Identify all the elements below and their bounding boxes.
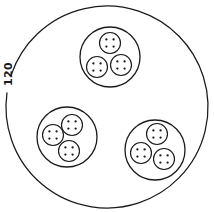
cluster-lower-right-unit-top-outline <box>147 124 168 145</box>
cluster-lower-right-unit-left-outline <box>131 143 152 164</box>
dot <box>48 137 50 139</box>
cluster-lower-left-unit-bottom <box>59 141 80 162</box>
dot <box>67 120 69 122</box>
dot <box>64 146 66 148</box>
dot <box>159 129 161 131</box>
dot <box>92 62 94 64</box>
dot <box>92 69 94 71</box>
cluster-group <box>37 27 185 180</box>
cluster-top-unit-top <box>100 33 121 54</box>
figure-canvas: 120 <box>0 0 214 212</box>
dot <box>105 38 107 40</box>
dot <box>143 155 145 157</box>
cluster-lower-left <box>37 107 97 167</box>
callout-group: 120 <box>2 62 15 86</box>
dot <box>152 129 154 131</box>
dot <box>105 45 107 47</box>
dot <box>166 161 168 163</box>
cluster-lower-left-unit-top-outline <box>62 115 83 136</box>
cluster-top-unit-right-outline <box>111 55 132 76</box>
dot <box>74 127 76 129</box>
dot <box>112 45 114 47</box>
dot <box>136 148 138 150</box>
cluster-top-unit-top-outline <box>100 33 121 54</box>
dot <box>123 67 125 69</box>
dot <box>112 38 114 40</box>
dot <box>159 154 161 156</box>
dot <box>159 136 161 138</box>
dot <box>55 130 57 132</box>
cluster-lower-left-unit-left-outline <box>43 125 64 146</box>
cluster-lower-left-unit-left <box>43 125 64 146</box>
dot <box>64 153 66 155</box>
dot <box>67 127 69 129</box>
dot <box>166 154 168 156</box>
dot <box>116 60 118 62</box>
dot <box>152 136 154 138</box>
dot <box>71 146 73 148</box>
nested-circles-diagram: 120 <box>0 0 214 212</box>
dot <box>123 60 125 62</box>
dot <box>143 148 145 150</box>
cluster-lower-right-unit-left <box>131 143 152 164</box>
cluster-lower-right-unit-top <box>147 124 168 145</box>
cluster-lower-right <box>125 120 185 180</box>
dot <box>116 67 118 69</box>
dot <box>71 153 73 155</box>
dot <box>74 120 76 122</box>
cluster-top-unit-left <box>87 57 108 78</box>
callout-label-120: 120 <box>2 62 15 86</box>
dot <box>48 130 50 132</box>
dot <box>55 137 57 139</box>
dot <box>136 155 138 157</box>
cluster-lower-left-unit-bottom-outline <box>59 141 80 162</box>
cluster-lower-right-unit-right <box>154 149 175 170</box>
cluster-lower-right-unit-right-outline <box>154 149 175 170</box>
dot <box>159 161 161 163</box>
cluster-lower-left-unit-top <box>62 115 83 136</box>
cluster-top <box>80 27 140 87</box>
dot <box>99 62 101 64</box>
cluster-top-unit-right <box>111 55 132 76</box>
cluster-top-unit-left-outline <box>87 57 108 78</box>
dot <box>99 69 101 71</box>
